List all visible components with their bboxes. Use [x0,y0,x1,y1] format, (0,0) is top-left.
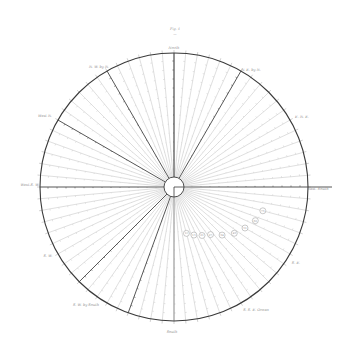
radial-tick [236,238,237,239]
radial-tick [243,116,244,117]
radial-tick [118,141,119,142]
radial-tick [59,134,60,136]
radial-tick [133,139,134,140]
radial-tick [226,72,228,73]
radial-tick [96,232,97,233]
radial-tick [120,281,121,282]
radial-tick [236,150,237,151]
radial-tick [231,117,232,118]
radial-tick [287,132,288,134]
marker-value: 73 [261,209,265,213]
radial-tick [73,224,74,225]
radial-tick [107,141,108,142]
radial-line [177,58,209,178]
radial-tick [250,250,251,251]
radial-line [139,197,171,317]
radial-tick [247,134,248,135]
radial-tick [111,99,112,100]
radial-tick [108,233,109,234]
radial-tick [132,128,133,129]
radial-tick [256,224,257,225]
radial-tick [117,244,118,245]
radial-tick [127,132,128,133]
radial-tick [98,251,99,252]
radial-tick [248,96,249,97]
radial-tick [134,257,135,258]
radial-tick [226,248,227,249]
radial-tick [269,119,270,120]
radial-tick [235,98,236,99]
radial-tick [216,276,217,277]
radial-tick [262,124,263,125]
radial-tick [109,111,110,112]
radial-tick [100,239,101,240]
radial-tick [249,110,250,111]
radial-tick [55,144,56,146]
marker-value: 27 [209,233,213,237]
radial-tick [211,105,212,106]
radial-tick [235,134,236,135]
radial-tick [275,149,276,150]
radial-tick [242,103,243,104]
radial-tick [83,112,84,113]
marker-value: 51 [243,226,247,230]
radial-tick [131,97,132,98]
radial-tick [110,251,111,252]
radial-tick [231,243,232,244]
figure-subtitle-text: — [173,32,177,36]
radial-tick [232,145,233,146]
radial-tick [283,145,284,147]
radial-tick [122,223,123,224]
radial-tick [251,141,252,142]
radial-tick [122,136,123,137]
compass-label-top_right: N. E. by N. [240,68,261,72]
radial-tick [271,267,272,268]
compass-label-bottom: South [167,330,178,334]
radial-tick [121,113,122,114]
radial-tick [92,225,93,226]
radial-tick [210,238,211,239]
radial-tick [263,275,264,276]
radial-tick [111,135,112,136]
radial-tick [97,111,98,112]
radial-tick [115,228,116,229]
radial-tick [98,263,99,264]
radial-tick [232,255,233,256]
radial-tick [228,280,229,281]
radial-tick [77,120,78,121]
radial-tick [225,113,226,114]
radial-tick [237,110,238,111]
radial-tick [220,120,221,121]
radial-tick [128,242,129,243]
radial-tick [129,69,131,70]
radial-tick [68,236,69,237]
radial-tick [119,93,120,94]
radial-tick [250,262,251,263]
radial-tick [262,248,263,249]
radial-tick [224,272,225,273]
radial-tick [233,227,234,228]
radial-tick [116,106,117,107]
radial-tick [218,142,219,143]
circled-markers: 736251433427211510 [183,208,265,239]
radial-tick [72,129,73,130]
radial-tick [227,93,228,94]
radial-tick [256,103,257,104]
radial-diagram: Fig. 4 — 736251433427211510 NorthN. W. b… [0,0,350,362]
radial-line [79,92,167,180]
radial-tick [119,233,120,234]
radial-tick [80,133,81,134]
radial-tick [70,115,71,116]
radial-tick [85,276,86,277]
radial-line [88,84,168,179]
radial-tick [102,290,103,291]
compass-label-right: East. South [306,187,328,191]
radial-tick [267,132,268,133]
radial-tick [73,246,74,247]
radial-tick [233,287,234,288]
radial-tick [121,125,122,126]
radial-tick [116,256,117,257]
radial-tick [84,262,85,263]
radial-tick [243,269,244,270]
marker-value: 62 [254,219,258,223]
